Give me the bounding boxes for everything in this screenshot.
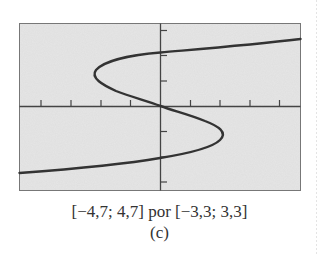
caption-panel-label: (c) — [0, 223, 319, 243]
caption-window-range: [−4,7; 4,7] por [−3,3; 3,3] — [0, 202, 319, 222]
figure: [−4,7; 4,7] por [−3,3; 3,3] (c) — [0, 0, 319, 256]
page-edge-divider — [316, 0, 317, 256]
